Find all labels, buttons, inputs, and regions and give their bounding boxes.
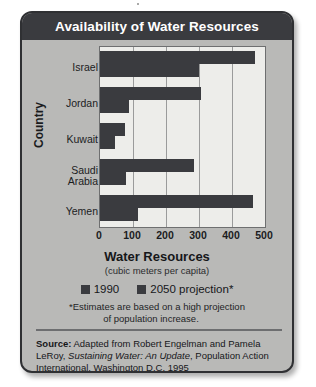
legend-swatch-icon bbox=[137, 285, 146, 294]
footnote-line-1: *Estimates are based on a high projectio… bbox=[69, 301, 245, 312]
legend-item: 2050 projection* bbox=[137, 283, 233, 295]
bar-yemen-1990 bbox=[100, 195, 253, 208]
category-labels: IsraelJordanKuwaitSaudi ArabiaYemen bbox=[50, 46, 98, 226]
footnote-line-2: of population increase. bbox=[22, 313, 292, 325]
bar-saudi-arabia-1990 bbox=[100, 159, 194, 172]
source-publication-title: Sustaining Water: An Update bbox=[68, 350, 190, 361]
category-label: Israel bbox=[72, 62, 98, 74]
x-axis-title: Water Resources bbox=[22, 249, 292, 264]
legend-label: 2050 projection* bbox=[150, 283, 233, 295]
bar-saudi-arabia-2050-projection- bbox=[100, 172, 126, 185]
x-tick-label: 200 bbox=[156, 229, 174, 241]
plot-area bbox=[99, 46, 266, 228]
x-axis-ticks: 0100200300400500 bbox=[99, 229, 264, 243]
bar-kuwait-1990 bbox=[100, 123, 125, 136]
chart-title-bar: Availability of Water Resources bbox=[22, 13, 292, 40]
x-tick-label: 300 bbox=[189, 229, 207, 241]
legend-swatch-icon bbox=[81, 285, 90, 294]
x-tick-label: 100 bbox=[123, 229, 141, 241]
chart-footnote: *Estimates are based on a high projectio… bbox=[22, 301, 292, 325]
bar-israel-2050-projection- bbox=[100, 64, 199, 77]
category-label: Jordan bbox=[66, 98, 98, 110]
source-citation: Source: Adapted from Robert Engelman and… bbox=[36, 338, 284, 373]
x-tick-label: 400 bbox=[222, 229, 240, 241]
bar-jordan-2050-projection- bbox=[100, 100, 129, 113]
page-speck bbox=[137, 3, 139, 5]
x-tick-label: 0 bbox=[96, 229, 102, 241]
screenshot-root: Availability of Water Resources Country … bbox=[0, 0, 316, 387]
bar-israel-1990 bbox=[100, 51, 255, 64]
source-label: Source: bbox=[36, 338, 71, 349]
chart-title: Availability of Water Resources bbox=[55, 19, 259, 34]
bar-kuwait-2050-projection- bbox=[100, 136, 115, 149]
chart-card: Availability of Water Resources Country … bbox=[20, 11, 294, 373]
legend-item: 1990 bbox=[81, 283, 120, 295]
x-tick-label: 500 bbox=[255, 229, 273, 241]
category-label: Yemen bbox=[66, 206, 98, 218]
chart-area: Country IsraelJordanKuwaitSaudi ArabiaYe… bbox=[22, 40, 292, 246]
x-axis-units: (cubic meters per capita) bbox=[22, 265, 292, 276]
bar-yemen-2050-projection- bbox=[100, 208, 138, 221]
chart-legend: 19902050 projection* bbox=[22, 283, 292, 295]
category-label: Kuwait bbox=[66, 134, 98, 146]
legend-label: 1990 bbox=[94, 283, 120, 295]
category-label: Saudi Arabia bbox=[68, 165, 98, 188]
bar-jordan-1990 bbox=[100, 87, 201, 100]
source-divider bbox=[36, 329, 282, 331]
y-axis-label: Country bbox=[32, 85, 46, 165]
